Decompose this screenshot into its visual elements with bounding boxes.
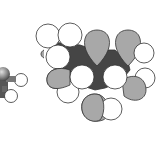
small-molecule (0, 67, 28, 103)
orbital-diagram (0, 0, 161, 153)
orbital-cluster (36, 23, 155, 121)
